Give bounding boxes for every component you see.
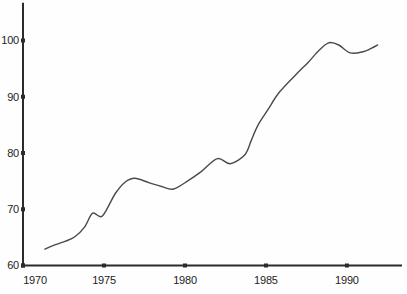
x-tick xyxy=(102,264,106,268)
y-tick-label: 60 xyxy=(7,259,19,271)
x-tick-label: 1975 xyxy=(92,274,116,286)
x-tick-label: 1985 xyxy=(254,274,278,286)
chart-canvas: 6070809010019701975198019851990 xyxy=(0,0,407,294)
y-tick-label: 70 xyxy=(7,203,19,215)
x-tick xyxy=(183,264,187,268)
data-curve xyxy=(45,42,378,249)
line-chart-figure: 6070809010019701975198019851990 xyxy=(0,0,407,294)
x-tick-label: 1990 xyxy=(335,274,359,286)
y-tick xyxy=(21,151,25,155)
x-tick xyxy=(264,264,268,268)
scanned-chart-page: 6070809010019701975198019851990 xyxy=(0,0,407,294)
y-tick-label: 90 xyxy=(7,91,19,103)
y-tick-label: 100 xyxy=(1,34,19,46)
x-tick xyxy=(21,264,25,268)
y-tick-label: 80 xyxy=(7,147,19,159)
y-tick xyxy=(21,38,25,42)
x-tick xyxy=(345,264,349,268)
y-tick xyxy=(21,207,25,211)
x-tick-label: 1970 xyxy=(23,274,47,286)
y-tick xyxy=(21,95,25,99)
x-tick-label: 1980 xyxy=(173,274,197,286)
